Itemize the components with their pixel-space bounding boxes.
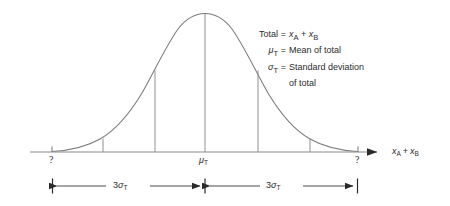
right-unknown-label: ?	[355, 154, 359, 165]
right-span-subscript: T	[276, 184, 280, 191]
annotation-total-lhs: Total	[250, 28, 278, 41]
mean-label-subscript: T	[204, 159, 208, 166]
annotation-sigma-lhs: σT	[250, 61, 278, 77]
annotation-line-total: Total=xA+xB	[250, 28, 390, 44]
annotation-mean-equals: =	[278, 44, 289, 57]
annotation-total-plus: +	[299, 29, 309, 39]
annotation-line-mean: μT=Mean of total	[250, 44, 390, 60]
annotation-total-sub-b: B	[313, 33, 318, 42]
left-span-subscript: T	[123, 184, 127, 191]
left-unknown-label: ?	[49, 154, 53, 165]
annotation-mean-lhs: μT	[250, 44, 278, 60]
normal-distribution-figure: ? μT ? xA+xB 3σT 3σT Total=xA+xB μT=Mean…	[0, 0, 450, 206]
annotation-sigma-text-cont: of total	[289, 77, 316, 90]
annotation-line-sigma: σT=Standard deviation	[250, 61, 390, 77]
annotation-mean-text: Mean of total	[289, 45, 341, 55]
annotation-total-sub-a: A	[294, 33, 299, 42]
axis-label-sub-a: A	[397, 150, 401, 157]
annotation-line-sigma-cont: of total	[250, 77, 390, 90]
axis-label-xa: x	[392, 146, 397, 156]
annotation-sigma-text: Standard deviation	[289, 62, 364, 72]
left-span-label: 3σT	[113, 180, 127, 191]
axis-label-plus: +	[401, 146, 410, 156]
annotation-sigma-equals: =	[278, 61, 289, 74]
axis-label-sub-b: B	[415, 150, 419, 157]
x-axis-label: xA+xB	[392, 146, 419, 157]
annotation-total-equals: =	[278, 28, 289, 41]
axis-label-xb: x	[410, 146, 415, 156]
right-span-label: 3σT	[266, 180, 280, 191]
annotation-block: Total=xA+xB μT=Mean of total σT=Standard…	[250, 28, 390, 89]
mean-label: μT	[199, 155, 208, 166]
